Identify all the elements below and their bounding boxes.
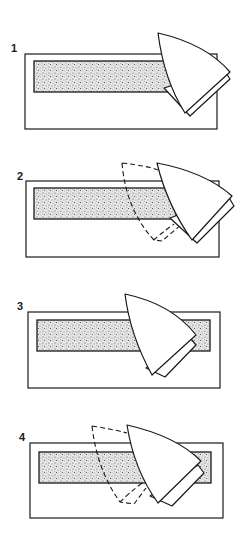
panel-label: 4 (19, 431, 26, 443)
panel-1: 1 (11, 33, 230, 129)
ironing-sequence-diagram: 1 2 3 4 (0, 0, 246, 548)
panel-label: 3 (17, 300, 23, 312)
stippled-strip (34, 61, 176, 92)
panel-label: 2 (17, 170, 23, 182)
panel-4: 4 (19, 425, 223, 518)
panel-2: 2 (17, 163, 234, 257)
panel-label: 1 (11, 42, 17, 54)
panel-3: 3 (17, 294, 220, 388)
stippled-strip (34, 188, 176, 219)
